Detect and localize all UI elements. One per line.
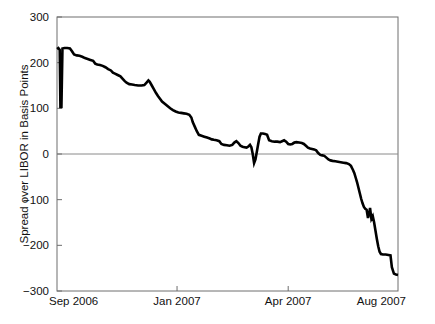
x-tick-label: Aug 2007 xyxy=(357,295,406,307)
y-axis-title-group: Spread over LIBOR in Basis Points xyxy=(18,64,30,243)
x-axis-tick-labels: Sep 2006Jan 2007Apr 2007Aug 2007 xyxy=(49,295,406,307)
x-axis-ticks xyxy=(177,286,288,291)
data-line-spread-over-libor xyxy=(57,48,398,275)
chart-figure: 3002001000−100−200−300 Sep 2006Jan 2007A… xyxy=(0,0,435,324)
y-axis-title: Spread over LIBOR in Basis Points xyxy=(18,64,30,243)
y-tick-label: 100 xyxy=(30,102,49,114)
y-tick-label: 0 xyxy=(43,148,49,160)
y-tick-label: 200 xyxy=(30,57,49,69)
line-chart: 3002001000−100−200−300 Sep 2006Jan 2007A… xyxy=(0,0,435,324)
x-tick-label: Apr 2007 xyxy=(265,295,312,307)
x-tick-label: Jan 2007 xyxy=(153,295,200,307)
y-tick-label: −300 xyxy=(23,285,49,297)
data-series-group xyxy=(57,48,398,275)
x-tick-label: Sep 2006 xyxy=(49,295,98,307)
y-tick-label: 300 xyxy=(30,11,49,23)
